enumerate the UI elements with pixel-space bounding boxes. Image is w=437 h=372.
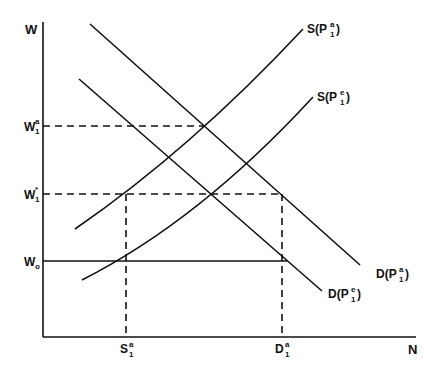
svg-text:): ) [346,90,350,104]
x-tick-d1a: D a 1 [275,340,290,359]
svg-text:e: e [351,285,356,294]
svg-text:1: 1 [35,127,40,136]
svg-text:1: 1 [399,275,404,284]
svg-text:S(P: S(P [317,90,337,104]
y-tick-w0: W o [24,255,40,271]
label-demand-pe: D(P e 1 ) [328,285,361,304]
x-tick-s1a: S a 1 [120,340,134,359]
svg-text:e: e [340,88,345,97]
svg-text:D(P: D(P [328,287,349,301]
svg-text:1: 1 [330,30,335,39]
supply-curve-pa [75,29,303,229]
svg-text:): ) [405,267,409,281]
svg-text:1: 1 [129,350,134,359]
svg-text:D: D [275,342,284,356]
label-supply-pa: S(P a 1 ) [307,20,340,39]
svg-text:S(P: S(P [307,22,327,36]
svg-text:1: 1 [351,295,356,304]
svg-text:1: 1 [340,98,345,107]
svg-text:S: S [120,342,128,356]
svg-text:*: * [35,185,39,194]
svg-text:a: a [330,20,335,29]
svg-text:o: o [35,262,40,271]
y-axis-label: W [25,22,38,37]
label-supply-pe: S(P e 1 ) [317,88,350,107]
svg-text:a: a [285,340,290,349]
y-tick-w1star: W * 1 [24,185,40,204]
svg-text:): ) [336,22,340,36]
x-axis-label: N [408,342,417,357]
svg-text:1: 1 [285,350,290,359]
labor-market-diagram: W N W a 1 W * 1 W o S a 1 D a 1 S(P a 1 … [0,0,437,372]
svg-text:): ) [357,287,361,301]
svg-text:a: a [399,265,404,274]
svg-text:a: a [35,117,40,126]
demand-curve-pa [90,24,360,265]
svg-text:a: a [129,340,134,349]
demand-curve-pe [79,79,322,291]
svg-text:1: 1 [35,195,40,204]
svg-text:D(P: D(P [376,267,397,281]
y-tick-w1a: W a 1 [24,117,40,136]
label-demand-pa: D(P a 1 ) [376,265,409,284]
